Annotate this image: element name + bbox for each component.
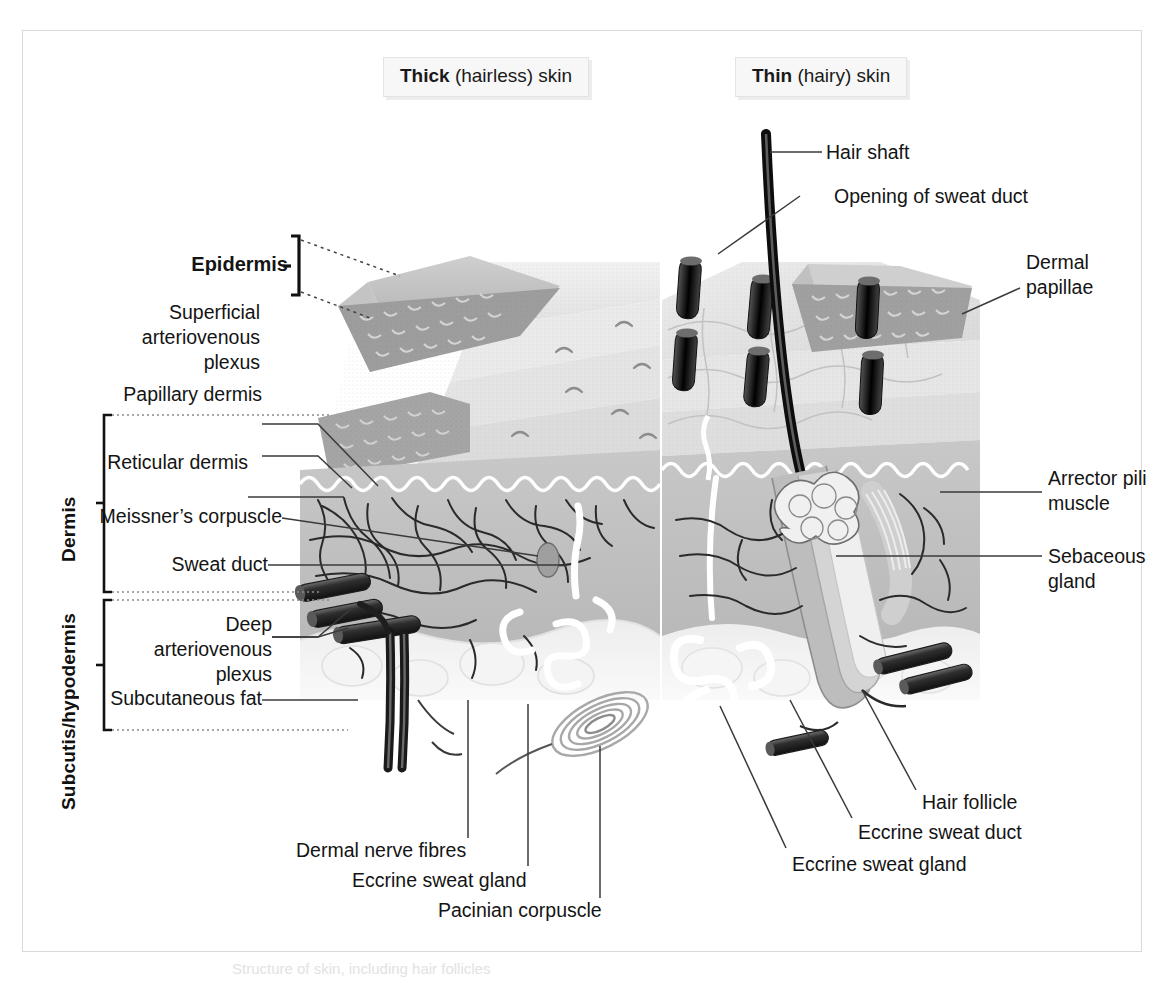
panel-title-thick: Thick (hairless) skin bbox=[383, 57, 589, 97]
panel-title-thin: Thin (hairy) skin bbox=[735, 57, 907, 97]
label-superficial-arteriovenous-plexus: Superficial arteriovenous plexus bbox=[90, 300, 260, 375]
meissners-corpuscle-art bbox=[537, 543, 559, 577]
label-sweat-duct: Sweat duct bbox=[96, 552, 268, 577]
label-hair-shaft: Hair shaft bbox=[826, 140, 1046, 165]
label-eccrine-sweat-gland-right: Eccrine sweat gland bbox=[792, 852, 1072, 877]
panel-title-thick-rest: (hairless) skin bbox=[450, 65, 572, 86]
panel-title-thin-rest: (hairy) skin bbox=[792, 65, 890, 86]
label-subcutaneous-fat: Subcutaneous fat bbox=[60, 686, 262, 711]
thick-skin-block bbox=[294, 256, 660, 774]
label-papillary-dermis: Papillary dermis bbox=[70, 382, 262, 407]
label-arrector-pili-muscle: Arrector pili muscle bbox=[1048, 466, 1160, 516]
label-eccrine-sweat-gland-left: Eccrine sweat gland bbox=[352, 868, 612, 893]
region-label-subcutis: Subcutis/hypodermis bbox=[58, 560, 80, 810]
label-eccrine-sweat-duct: Eccrine sweat duct bbox=[858, 820, 1118, 845]
skin-structure-figure: Thick (hairless) skin Thin (hairy) skin … bbox=[0, 0, 1160, 983]
label-dermal-nerve-fibres: Dermal nerve fibres bbox=[296, 838, 536, 863]
label-sebaceous-gland: Sebaceous gland bbox=[1048, 544, 1160, 594]
label-deep-arteriovenous-plexus: Deep arteriovenous plexus bbox=[90, 612, 272, 687]
label-epidermis: Epidermis bbox=[120, 252, 288, 277]
label-opening-of-sweat-duct: Opening of sweat duct bbox=[834, 184, 1134, 209]
thin-skin-block bbox=[662, 134, 980, 757]
panel-title-thin-bold: Thin bbox=[752, 65, 792, 86]
label-dermal-papillae: Dermal papillae bbox=[1026, 250, 1146, 300]
label-reticular-dermis: Reticular dermis bbox=[60, 450, 248, 475]
label-meissners-corpuscle: Meissner’s corpuscle bbox=[36, 504, 282, 529]
panel-title-thick-bold: Thick bbox=[400, 65, 450, 86]
figure-caption: Structure of skin, including hair follic… bbox=[232, 960, 490, 977]
label-hair-follicle: Hair follicle bbox=[922, 790, 1122, 815]
label-pacinian-corpuscle: Pacinian corpuscle bbox=[438, 898, 698, 923]
